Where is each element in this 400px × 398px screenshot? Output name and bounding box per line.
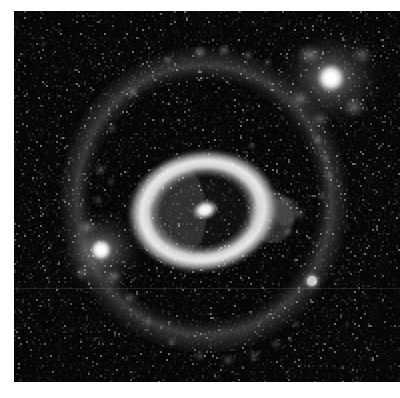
sky-canvas [14,11,400,382]
ring-knot [141,315,155,329]
ring-knot [193,349,207,363]
ring-knot [105,176,117,188]
ring-knot [241,48,255,62]
ring-knot [246,140,258,152]
ring-knot [165,335,179,349]
ring-knot [191,43,209,61]
field-star [68,326,77,335]
ring-knot [122,290,138,306]
field-star [40,40,49,49]
figure-root [0,0,400,398]
field-star [348,296,357,305]
ring-knot [125,84,141,100]
bright-companion-upper-right [273,26,389,130]
bright-companion-left [55,208,147,292]
ring-knot [220,352,236,368]
ring-knot [311,133,325,147]
ring-knot [316,190,328,202]
field-star [278,114,287,123]
field-star [240,108,249,117]
compact-knot-lower-right [301,270,323,292]
ring-knot [269,337,283,351]
ring-knot [91,193,105,207]
astronomical-image-plate [14,11,400,382]
ring-knot [262,56,274,68]
ring-knot [161,53,175,67]
ring-knot [323,169,337,183]
ring-knot [320,152,332,164]
ring-knot [290,318,302,330]
ring-knot [247,349,261,363]
ring-knot [92,162,108,178]
ring-knot [105,121,119,135]
field-star [344,224,353,233]
ring-knot [216,42,232,58]
